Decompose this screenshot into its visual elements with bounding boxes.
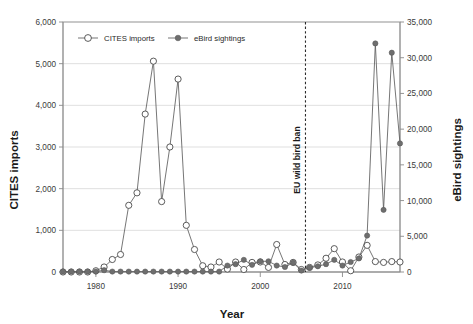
- data-point: [340, 263, 345, 268]
- legend-ebird-label: eBird sightings: [194, 34, 245, 43]
- data-point: [241, 257, 246, 262]
- data-point: [282, 264, 287, 269]
- data-point: [332, 257, 337, 262]
- x-axis-title: Year: [220, 308, 245, 320]
- data-point: [134, 269, 139, 274]
- data-point: [200, 263, 206, 269]
- data-point: [109, 256, 115, 262]
- data-point: [258, 259, 263, 264]
- data-point: [175, 76, 181, 82]
- data-point: [372, 258, 378, 264]
- data-point: [192, 269, 197, 274]
- data-point: [373, 41, 378, 46]
- y2-tick-label: 10,000: [407, 197, 432, 206]
- data-point: [159, 198, 165, 204]
- data-point: [183, 222, 189, 228]
- data-point: [217, 269, 222, 274]
- data-point: [134, 190, 140, 196]
- data-point: [233, 262, 238, 267]
- data-point: [126, 202, 132, 208]
- data-point: [381, 207, 386, 212]
- data-point: [167, 144, 173, 150]
- data-point: [69, 269, 74, 274]
- data-point: [331, 246, 337, 252]
- y-tick-label: 1,000: [36, 226, 57, 235]
- y-tick-label: 6,000: [36, 18, 57, 27]
- y2-tick-label: 30,000: [407, 54, 432, 63]
- data-point: [299, 268, 304, 273]
- legend-cites-label: CITES imports: [104, 34, 155, 43]
- y-tick-label: 3,000: [36, 143, 57, 152]
- data-point: [208, 269, 213, 274]
- data-point: [184, 269, 189, 274]
- x-tick-label: 1990: [169, 282, 188, 291]
- legend-ebird-swatch-marker: [175, 35, 181, 41]
- data-point: [315, 264, 320, 269]
- y-tick-label: 5,000: [36, 60, 57, 69]
- data-point: [397, 259, 403, 265]
- data-point: [348, 259, 353, 264]
- data-point: [389, 258, 395, 264]
- y-tick-label: 0: [51, 268, 56, 277]
- data-point: [265, 264, 271, 270]
- y2-tick-label: 25,000: [407, 89, 432, 98]
- y-tick-label: 4,000: [36, 101, 57, 110]
- data-point: [117, 251, 123, 257]
- data-point: [323, 262, 328, 267]
- data-point: [142, 111, 148, 117]
- data-point: [85, 269, 90, 274]
- data-point: [126, 269, 131, 274]
- data-point: [143, 269, 148, 274]
- y2-tick-label: 0: [407, 268, 412, 277]
- data-point: [323, 255, 329, 261]
- data-point: [167, 269, 172, 274]
- data-point: [175, 269, 180, 274]
- data-point: [150, 58, 156, 64]
- data-point: [191, 246, 197, 252]
- legend-cites-swatch-marker: [85, 35, 92, 42]
- data-point: [397, 141, 402, 146]
- data-point: [307, 265, 312, 270]
- y2-tick-label: 5,000: [407, 232, 428, 241]
- data-point: [241, 266, 247, 272]
- x-tick-label: 2000: [251, 282, 270, 291]
- data-point: [274, 263, 279, 268]
- data-point: [274, 241, 280, 247]
- y2-tick-label: 35,000: [407, 18, 432, 27]
- data-point: [93, 269, 98, 274]
- data-point: [110, 269, 115, 274]
- data-point: [60, 269, 65, 274]
- x-tick-label: 2010: [333, 282, 352, 291]
- data-point: [200, 269, 205, 274]
- data-point: [216, 259, 222, 265]
- y-tick-label: 2,000: [36, 185, 57, 194]
- y2-tick-label: 15,000: [407, 161, 432, 170]
- data-point: [225, 263, 230, 268]
- data-point: [118, 269, 123, 274]
- y-axis-title: CITES imports: [8, 130, 20, 209]
- eu-wild-bird-ban-label: EU wild bird ban: [292, 126, 302, 193]
- data-point: [101, 268, 106, 273]
- data-point: [291, 260, 296, 265]
- data-point: [364, 242, 370, 248]
- data-point: [380, 259, 386, 265]
- x-tick-label: 1980: [87, 282, 106, 291]
- data-point: [389, 50, 394, 55]
- data-point: [249, 262, 254, 267]
- data-point: [266, 259, 271, 264]
- data-point: [159, 269, 164, 274]
- data-point: [348, 268, 354, 274]
- chart-figure: 01,0002,0003,0004,0005,0006,000 05,00010…: [0, 0, 473, 324]
- data-point: [151, 269, 156, 274]
- data-point: [356, 256, 361, 261]
- data-point: [365, 233, 370, 238]
- y2-tick-label: 20,000: [407, 125, 432, 134]
- data-point: [77, 269, 82, 274]
- y2-axis-title: eBird sightings: [451, 118, 463, 202]
